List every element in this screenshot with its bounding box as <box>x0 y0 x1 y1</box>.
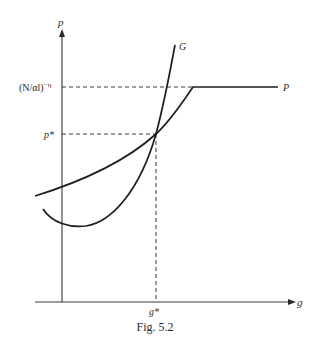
curve-p-label: P <box>282 82 289 93</box>
diagram-figure: p g (N/αl)−η p* g* G P Fig. 5.2 <box>0 0 317 342</box>
curve-g-label: G <box>179 41 186 52</box>
x-axis-label: g <box>297 296 303 308</box>
figure-caption: Fig. 5.2 <box>136 320 173 334</box>
upper-bound-exponent: −η <box>44 81 52 89</box>
g-star-label: g* <box>149 306 159 317</box>
upper-bound-base: (N/αl) <box>19 82 44 94</box>
y-axis-label: p <box>57 16 64 28</box>
p-star-label: p* <box>43 129 54 140</box>
upper-bound-label: (N/αl)−η <box>19 81 52 94</box>
